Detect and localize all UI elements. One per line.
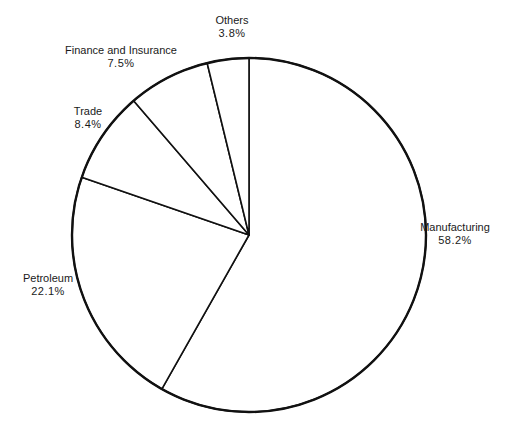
slice-label-finance-and-insurance: Finance and Insurance7.5%	[65, 44, 177, 70]
slice-label-trade: Trade8.4%	[74, 105, 102, 131]
slice-percent: 8.4%	[74, 118, 102, 131]
slice-name: Manufacturing	[420, 221, 490, 234]
slice-percent: 58.2%	[420, 234, 490, 247]
slice-label-others: Others3.8%	[215, 14, 248, 40]
slice-name: Petroleum	[23, 272, 73, 285]
slice-percent: 3.8%	[215, 27, 248, 40]
slice-name: Finance and Insurance	[65, 44, 177, 57]
slice-name: Others	[215, 14, 248, 27]
slice-name: Trade	[74, 105, 102, 118]
slice-label-petroleum: Petroleum22.1%	[23, 272, 73, 298]
slice-label-manufacturing: Manufacturing58.2%	[420, 221, 490, 247]
slice-percent: 7.5%	[65, 57, 177, 70]
slice-percent: 22.1%	[23, 285, 73, 298]
